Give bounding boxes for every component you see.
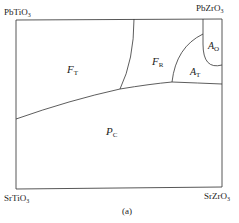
corner-label-srzro3: SrZrO3: [204, 192, 230, 202]
phase-label-ao: AO: [208, 41, 219, 53]
phase-label-at: AT: [190, 67, 200, 79]
boundary-ft-fr: [120, 19, 134, 89]
corner-label-pbtio3: PbTiO3: [4, 8, 31, 18]
diagram-frame: [16, 19, 222, 189]
boundary-ferro-paraelectric: [16, 82, 222, 119]
corner-label-srtio3: SrTiO3: [4, 194, 29, 204]
corner-label-pbzro3: PbZrO3: [196, 4, 224, 14]
phase-diagram-lines: [0, 0, 239, 223]
phase-label-ft: FT: [67, 64, 78, 77]
phase-label-pc: PC: [106, 126, 117, 139]
figure-caption: (a): [122, 207, 132, 216]
phase-label-fr: FR: [152, 56, 163, 69]
